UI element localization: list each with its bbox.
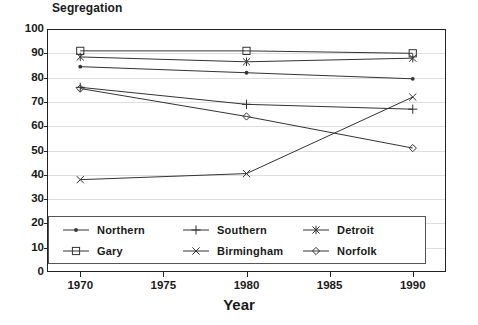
legend-swatch-asterisk-icon [301, 223, 331, 237]
legend-swatch-diamond-icon [301, 244, 331, 258]
series-northern [78, 65, 414, 81]
chart-canvas: Segregation 1009080706050403020100 19701… [0, 0, 478, 325]
x-tick-label: 1980 [217, 279, 277, 291]
legend-label: Birmingham [217, 245, 283, 257]
legend: NorthernSouthernDetroitGaryBirminghamNor… [48, 216, 426, 264]
y-tick-label: 0 [4, 266, 44, 278]
x-tick-label: 1990 [383, 279, 443, 291]
marker-filled-circle [411, 77, 415, 81]
legend-label: Southern [217, 224, 267, 236]
y-tick-label: 30 [4, 193, 44, 205]
marker-plus [242, 100, 251, 109]
x-tick-label: 1975 [133, 279, 193, 291]
y-tick-label: 100 [4, 23, 44, 35]
series-line [80, 89, 413, 149]
y-tick-label: 90 [4, 48, 44, 60]
x-axis-label: Year [0, 296, 478, 313]
marker-plus [191, 225, 200, 234]
legend-swatch-filled-circle-icon [61, 223, 91, 237]
x-tick-label: 1985 [300, 279, 360, 291]
series-line [80, 51, 413, 53]
x-tick-mark [247, 272, 248, 277]
legend-label: Detroit [337, 224, 374, 236]
x-tick-mark [413, 272, 414, 277]
marker-plus [76, 83, 85, 92]
x-tick-mark [80, 272, 81, 277]
page-title: Segregation [52, 1, 122, 15]
legend-swatch-cross-icon [181, 244, 211, 258]
legend-swatch-square-icon [61, 244, 91, 258]
marker-cross [409, 93, 416, 100]
legend-item-gary[interactable]: Gary [61, 244, 181, 258]
y-tick-label: 70 [4, 96, 44, 108]
y-tick-label: 60 [4, 120, 44, 132]
legend-label: Northern [97, 224, 145, 236]
y-tick-label: 50 [4, 145, 44, 157]
x-tick-mark [163, 272, 164, 277]
marker-filled-circle [245, 71, 249, 75]
y-tick-label: 20 [4, 218, 44, 230]
x-tick-label: 1970 [50, 279, 110, 291]
x-tick-mark [330, 272, 331, 277]
legend-item-birmingham[interactable]: Birmingham [181, 244, 301, 258]
legend-item-northern[interactable]: Northern [61, 223, 181, 237]
legend-item-southern[interactable]: Southern [181, 223, 301, 237]
legend-swatch-plus-icon [181, 223, 211, 237]
series-southern [76, 83, 418, 114]
legend-grid: NorthernSouthernDetroitGaryBirminghamNor… [49, 217, 425, 263]
y-tick-label: 40 [4, 169, 44, 181]
legend-label: Norfolk [337, 245, 377, 257]
y-tick-label: 80 [4, 72, 44, 84]
series-gary [77, 47, 417, 57]
legend-item-detroit[interactable]: Detroit [301, 223, 421, 237]
legend-label: Gary [97, 245, 123, 257]
marker-filled-circle [78, 65, 82, 69]
y-tick-label: 10 [4, 242, 44, 254]
legend-item-norfolk[interactable]: Norfolk [301, 244, 421, 258]
marker-filled-circle [74, 228, 78, 232]
y-axis: 1009080706050403020100 [0, 29, 44, 272]
marker-plus [408, 105, 417, 114]
